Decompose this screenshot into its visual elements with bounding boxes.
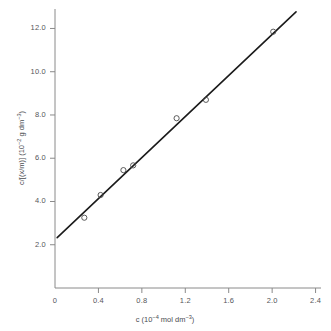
data-point-marker — [203, 97, 208, 102]
y-tick-label: 4.0 — [0, 198, 46, 206]
regression-line — [57, 12, 296, 238]
fit-line — [57, 12, 296, 238]
data-point-marker — [131, 163, 136, 168]
x-tick-label: 1.6 — [223, 297, 234, 305]
axis-lines — [55, 9, 321, 288]
x-tick-label: 0.8 — [136, 297, 147, 305]
x-tick-label: 2.0 — [267, 297, 278, 305]
x-tick-label: 1.2 — [180, 297, 191, 305]
chart-figure: 00.40.81.21.62.02.4 2.04.06.08.010.012.0… — [0, 0, 331, 331]
x-axis-ticks — [98, 288, 315, 293]
y-tick-label: 2.0 — [0, 241, 46, 249]
data-point-marker — [98, 192, 103, 197]
data-point-marker — [174, 116, 179, 121]
y-tick-label: 10.0 — [0, 68, 46, 76]
y-axis-ticks — [50, 28, 55, 244]
plot-canvas — [0, 0, 331, 331]
x-tick-label: 2.4 — [310, 297, 321, 305]
y-axis-title: c/[(x/m)] (10−2 g dm−3) — [18, 111, 26, 185]
y-tick-label: 12.0 — [0, 25, 46, 33]
data-point-marker — [82, 215, 87, 220]
data-point-marker — [271, 29, 276, 34]
x-tick-label: 0 — [53, 297, 57, 305]
data-point-marker — [121, 168, 126, 173]
x-tick-label: 0.4 — [93, 297, 104, 305]
x-axis-title: c (10−4 mol dm−3) — [136, 316, 195, 324]
